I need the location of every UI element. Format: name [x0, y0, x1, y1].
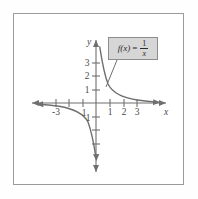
formula-numerator: 1 — [140, 40, 148, 48]
formula-equals: = — [132, 44, 137, 53]
figure-frame — [13, 13, 184, 185]
function-callout-box: f(x) = 1 x — [108, 37, 158, 60]
figure-container: x y -3 1 1 2 3 3 2 1 1 f(x) = 1 x — [0, 0, 198, 199]
formula-lhs: f(x) — [118, 44, 131, 53]
formula-denominator: x — [141, 50, 149, 58]
formula-fraction: 1 x — [140, 40, 148, 58]
function-formula: f(x) = 1 x — [118, 40, 149, 58]
